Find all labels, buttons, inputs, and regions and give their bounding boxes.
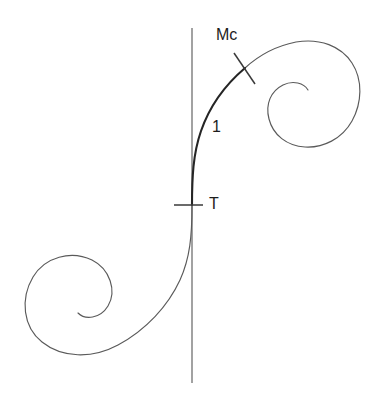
label-t: T	[209, 196, 219, 212]
label-unit-length: 1	[212, 119, 221, 135]
cornu-spiral-figure	[0, 0, 378, 406]
figure-canvas: Mc 1 T	[0, 0, 378, 406]
lower-spiral-curve	[25, 205, 192, 355]
thick-arc-segment	[192, 68, 245, 205]
upper-spiral-curve	[245, 41, 360, 147]
mc-tick-mark	[234, 53, 255, 84]
label-mc: Mc	[216, 27, 237, 43]
